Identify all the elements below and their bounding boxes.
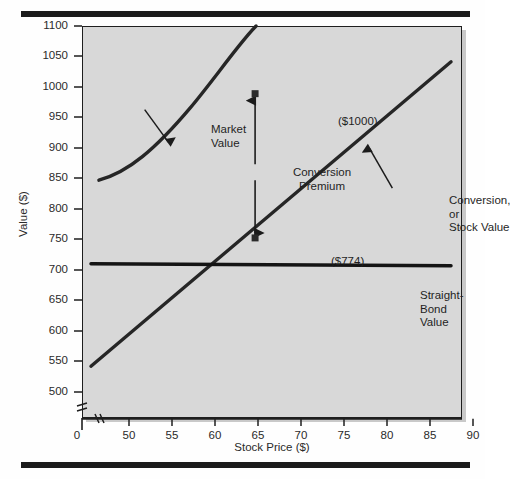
x-tick-label-85: 85 [410,430,450,442]
conversion-stock-value-leader [369,148,392,188]
annotation-market-value: Market Value [211,123,246,150]
x-tick-label-60: 60 [195,430,235,442]
market-value-leader [145,110,169,143]
y-tick-label-600: 600 [22,325,68,337]
plot-svg [83,27,461,417]
annotation-conversion-premium: Conversion Premium [279,166,365,193]
y-tick-label-1000: 1000 [22,81,68,93]
annotation-value-1000: ($1000) [338,115,378,129]
x-axis-title: Stock Price ($) [162,441,382,453]
x-tick-label-55: 55 [152,430,192,442]
x-tick-label-80: 80 [367,430,407,442]
series-conversion-stock-value [91,62,451,366]
y-tick-label-650: 650 [22,294,68,306]
x-tick-label-75: 75 [324,430,364,442]
annotation-straight-bond-value: Straight-Bond Value [420,289,463,330]
marker-conversion-value-774 [252,234,259,241]
y-tick-marks [74,26,82,392]
bottom-rule [21,462,470,468]
y-tick-label-700: 700 [22,264,68,276]
y-axis-title: Value ($) [17,174,29,254]
x-tick-label-70: 70 [281,430,321,442]
marker-market-value-1000 [252,90,259,97]
y-tick-label-550: 550 [22,355,68,367]
y-tick-label-500: 500 [22,386,68,398]
x-tick-label-50: 50 [109,430,149,442]
y-tick-label-900: 900 [22,142,68,154]
series-market-value [99,26,256,180]
annotation-conversion-stock-value: Conversion, or Stock Value [449,194,510,235]
plot-area: Market Value Conversion Premium Conversi… [82,26,462,418]
x-tick-label-0: 0 [57,430,97,442]
y-tick-label-1050: 1050 [22,50,68,62]
y-tick-label-950: 950 [22,111,68,123]
x-tick-label-90: 90 [453,430,493,442]
series-straight-bond-value [91,264,451,266]
y-tick-label-1100: 1100 [22,20,68,32]
top-rule [21,11,470,17]
annotation-value-774: ($774) [331,255,364,269]
x-tick-label-65: 65 [238,430,278,442]
